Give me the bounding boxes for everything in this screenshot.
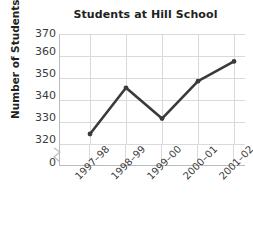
y-tick-label-340: 340 [26, 90, 56, 101]
y-tick-label-370: 370 [26, 28, 56, 39]
y-tick-label-330: 330 [26, 112, 56, 123]
plot-area [59, 34, 245, 144]
data-series-plot [60, 35, 246, 145]
data-point-1999–00 [160, 116, 165, 121]
data-point-markers [88, 59, 237, 136]
axis-break-icon [52, 146, 68, 164]
y-tick-label-320: 320 [26, 134, 56, 145]
x-axis-tick-labels: 1997–98 1998–99 1999–00 2000–01 2001–02 [0, 166, 253, 226]
y-tick-label-360: 360 [26, 46, 56, 57]
data-line [90, 61, 234, 134]
chart-title: Students at Hill School [48, 8, 243, 21]
data-point-1997–98 [88, 132, 93, 137]
data-point-2001–02 [232, 59, 237, 64]
y-axis-title: Number of Students [9, 1, 21, 119]
data-point-1998–99 [124, 85, 129, 90]
data-point-2000–01 [196, 79, 201, 84]
line-chart-figure: Students at Hill School Number of Studen… [0, 0, 253, 226]
y-tick-label-350: 350 [26, 68, 56, 79]
